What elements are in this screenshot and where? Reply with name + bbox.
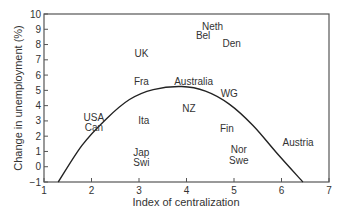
country-label: Nor <box>231 144 248 155</box>
y-tick-label: 3 <box>35 115 41 126</box>
x-tick-label: 6 <box>279 185 285 196</box>
country-label: WG <box>221 88 238 99</box>
x-tick-label: 3 <box>136 185 142 196</box>
y-tick-label: 9 <box>35 24 41 35</box>
country-label: Fra <box>134 76 149 87</box>
scatter-chart: 1234567−1012345678910 NethBelDenUKFraAus… <box>0 0 348 212</box>
y-tick-label: 0 <box>35 161 41 172</box>
country-label: Australia <box>174 76 213 87</box>
y-tick-label: 2 <box>35 131 41 142</box>
y-tick-label: −1 <box>30 177 42 188</box>
country-label: Swe <box>229 155 249 166</box>
x-tick-label: 1 <box>41 185 47 196</box>
y-tick-label: 1 <box>35 146 41 157</box>
country-label: Austria <box>283 137 315 148</box>
x-axis-label: Index of centralization <box>132 196 239 208</box>
y-tick-label: 7 <box>35 54 41 65</box>
country-label: NZ <box>182 103 195 114</box>
y-axis-label: Change in unemployment (%) <box>12 25 24 171</box>
x-tick-label: 7 <box>326 185 332 196</box>
x-tick-label: 4 <box>184 185 190 196</box>
country-label: Swi <box>133 157 149 168</box>
y-tick-label: 6 <box>35 70 41 81</box>
country-label: Bel <box>196 30 210 41</box>
x-tick-label: 2 <box>89 185 95 196</box>
country-label: Ita <box>138 115 150 126</box>
y-tick-label: 5 <box>35 85 41 96</box>
plot-frame <box>44 14 329 182</box>
fitted-curve <box>58 87 303 182</box>
country-label: Can <box>85 122 103 133</box>
y-tick-label: 8 <box>35 39 41 50</box>
country-label: Fin <box>220 123 234 134</box>
country-label: UK <box>134 48 148 59</box>
y-tick-label: 4 <box>35 100 41 111</box>
curve-path <box>58 87 303 182</box>
country-label: Den <box>222 38 240 49</box>
axes: 1234567−1012345678910 <box>30 9 333 197</box>
country-labels: NethBelDenUKFraAustraliaWGNZUSACanItaFin… <box>84 21 315 168</box>
x-tick-label: 5 <box>231 185 237 196</box>
y-tick-label: 10 <box>30 9 42 20</box>
